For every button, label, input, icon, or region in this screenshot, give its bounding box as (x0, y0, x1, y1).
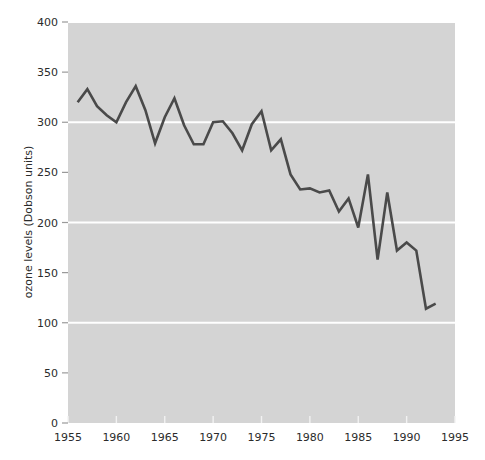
x-tick-label-1990: 1990 (393, 431, 421, 444)
x-tick-label-1955: 1955 (54, 431, 82, 444)
y-tick-label-350: 350 (37, 66, 58, 79)
y-axis-title: ozone levels (Dobson units) (22, 146, 35, 299)
chart-canvas: 195519601965197019751980198519901995 050… (0, 0, 485, 460)
x-tick-label-1965: 1965 (151, 431, 179, 444)
y-tick-label-300: 300 (37, 116, 58, 129)
x-tick-label-1985: 1985 (344, 431, 372, 444)
y-tick-label-0: 0 (51, 417, 58, 430)
y-tick-label-50: 50 (44, 367, 58, 380)
y-tick-label-200: 200 (37, 217, 58, 230)
y-tick-label-150: 150 (37, 267, 58, 280)
x-tick-label-1970: 1970 (199, 431, 227, 444)
x-tick-label-1960: 1960 (102, 431, 130, 444)
y-tick-label-400: 400 (37, 16, 58, 29)
y-tick-label-250: 250 (37, 166, 58, 179)
ozone-line-chart: 195519601965197019751980198519901995 050… (0, 0, 485, 460)
x-axis-tick-labels: 195519601965197019751980198519901995 (54, 431, 469, 444)
y-tick-label-100: 100 (37, 317, 58, 330)
x-tick-label-1995: 1995 (441, 431, 469, 444)
x-tick-label-1975: 1975 (248, 431, 276, 444)
x-tick-label-1980: 1980 (296, 431, 324, 444)
